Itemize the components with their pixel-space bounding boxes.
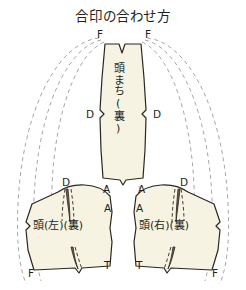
piece-label-left: 頭(左)(裏): [33, 220, 83, 232]
piece-label-right: 頭(右)(裏): [139, 220, 189, 232]
mark-right-top-d: D: [180, 177, 188, 188]
mark-right-bottom-f: F: [212, 268, 218, 279]
mark-center-top-left-f: F: [97, 29, 103, 40]
mark-center-bottom-right-a: A: [138, 184, 145, 195]
mark-left-right-a: A: [104, 203, 111, 214]
mark-left-top-d: D: [62, 177, 70, 188]
diagram-canvas: [0, 0, 246, 290]
mark-left-right-t: T: [104, 260, 110, 271]
pattern-diagram: 合印の合わせ方: [0, 0, 246, 290]
mark-right-left-a: A: [136, 203, 143, 214]
piece-label-center: 頭まち(裏): [112, 62, 124, 135]
mark-center-bottom-left-a: A: [103, 184, 110, 195]
mark-center-top-right-f: F: [145, 29, 151, 40]
mark-right-left-t: T: [136, 260, 142, 271]
mark-center-mid-left-d: D: [86, 109, 94, 120]
mark-left-bottom-f: F: [28, 268, 34, 279]
mark-center-mid-right-d: D: [153, 109, 161, 120]
